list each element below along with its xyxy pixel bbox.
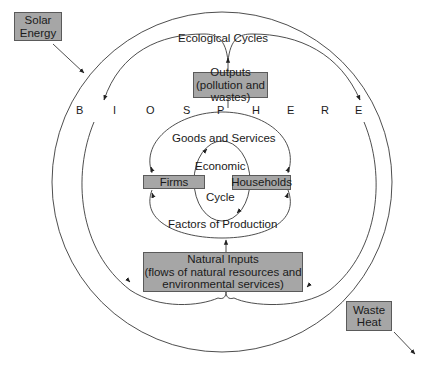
biosphere-letter-r: R — [321, 104, 329, 116]
biosphere-outer-circle — [52, 12, 392, 352]
natural-inputs-line3: environmental services) — [162, 278, 283, 291]
waste-heat-box: Waste Heat — [346, 301, 392, 331]
waste-heat-arrow — [394, 332, 415, 354]
solar-energy-line2: Energy — [20, 27, 56, 40]
biosphere-letter-h: H — [252, 104, 260, 116]
economic-label: Economic — [195, 160, 246, 172]
biosphere-letter-i: I — [113, 104, 116, 116]
natural-inputs-junction — [218, 292, 234, 299]
firms-label: Firms — [160, 176, 189, 189]
natural-inputs-box: Natural Inputs (flows of natural resourc… — [143, 252, 303, 292]
households-label: Households — [231, 176, 292, 189]
firms-box: Firms — [143, 175, 205, 189]
ecological-cycles-label: Ecological Cycles — [178, 32, 268, 44]
biosphere-letter-e1: E — [287, 104, 294, 116]
outputs-title: Outputs — [210, 66, 250, 79]
goods-and-services-label: Goods and Services — [172, 132, 276, 144]
biosphere-letter-o: O — [146, 104, 155, 116]
natural-inputs-title: Natural Inputs — [187, 253, 259, 266]
outputs-box: Outputs (pollution and wastes) — [193, 72, 268, 98]
solar-energy-line1: Solar — [25, 14, 52, 27]
biosphere-letter-e2: E — [355, 104, 362, 116]
waste-heat-line2: Heat — [357, 316, 381, 329]
natural-inputs-line2: (flows of natural resources and — [144, 266, 301, 279]
biosphere-letter-b: B — [76, 104, 83, 116]
factors-of-production-label: Factors of Production — [168, 218, 277, 230]
biosphere-letter-s: S — [183, 104, 190, 116]
households-box: Households — [232, 175, 291, 190]
solar-energy-arrow — [53, 44, 84, 73]
waste-heat-line1: Waste — [353, 304, 385, 317]
solar-energy-box: Solar Energy — [14, 12, 62, 41]
outputs-subtitle: (pollution and wastes) — [194, 79, 267, 104]
biosphere-letter-p: P — [217, 104, 224, 116]
cycle-label: Cycle — [206, 191, 235, 203]
